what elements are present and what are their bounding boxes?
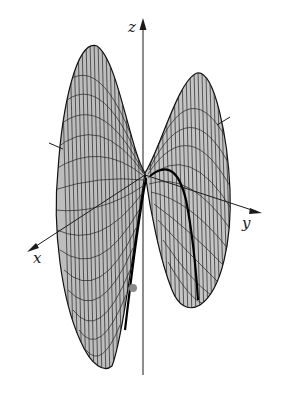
highlight-point [129,284,137,292]
y-axis-label: y [241,214,251,232]
saddle-surface-figure: z x y [0,0,285,394]
surface-right-lobe [145,70,232,320]
saddle-surface-svg: z x y [0,0,285,394]
z-axis-arrowhead [140,18,147,30]
y-axis-arrowhead [249,208,262,214]
surface-left-lobe [54,40,146,380]
z-axis-label: z [127,18,136,36]
x-axis-label: x [33,249,42,267]
